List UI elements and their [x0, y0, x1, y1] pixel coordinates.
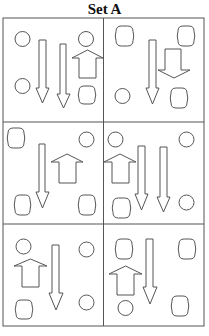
circle-shape	[179, 132, 194, 147]
down-arrow-icon	[158, 49, 190, 78]
down-arrow-icon	[135, 146, 148, 210]
barrel-shape	[78, 86, 96, 104]
circle-shape	[15, 79, 30, 94]
up-arrow-icon	[109, 266, 142, 295]
down-arrow-icon	[157, 147, 170, 212]
down-arrow-icon	[36, 40, 49, 103]
down-arrow-icon	[49, 245, 63, 310]
barrel-shape	[170, 88, 188, 108]
barrel-shape	[7, 128, 25, 148]
barrel-shape	[115, 239, 133, 259]
panel-3	[7, 128, 96, 215]
circle-shape	[16, 239, 31, 254]
circle-shape	[15, 32, 30, 47]
panel-1	[15, 32, 103, 109]
panel-4	[104, 132, 194, 218]
down-arrow-icon	[57, 44, 70, 108]
barrel-shape	[112, 198, 131, 218]
barrel-shape	[14, 195, 31, 215]
barrel-shape	[15, 300, 33, 319]
circle-shape	[79, 32, 94, 47]
down-arrow-icon	[146, 40, 159, 104]
up-arrow-icon	[14, 259, 47, 287]
up-arrow-icon	[104, 154, 136, 183]
circle-shape	[79, 132, 94, 147]
barrel-shape	[171, 296, 189, 316]
up-arrow-icon	[72, 50, 103, 78]
panels	[7, 26, 196, 319]
barrel-shape	[115, 26, 134, 46]
puzzle-grid	[0, 0, 209, 336]
circle-shape	[79, 242, 94, 257]
panel-5	[14, 239, 94, 319]
circle-shape	[79, 295, 94, 310]
barrel-shape	[78, 195, 96, 215]
barrel-shape	[177, 26, 195, 46]
circle-shape	[179, 195, 194, 210]
circle-shape	[115, 89, 130, 104]
circle-shape	[108, 132, 123, 147]
up-arrow-icon	[51, 154, 83, 183]
down-arrow-icon	[36, 144, 49, 208]
down-arrow-icon	[143, 239, 157, 304]
barrel-shape	[178, 239, 196, 259]
panel-2	[115, 26, 195, 108]
circle-shape	[118, 301, 133, 316]
panel-6	[109, 239, 196, 316]
